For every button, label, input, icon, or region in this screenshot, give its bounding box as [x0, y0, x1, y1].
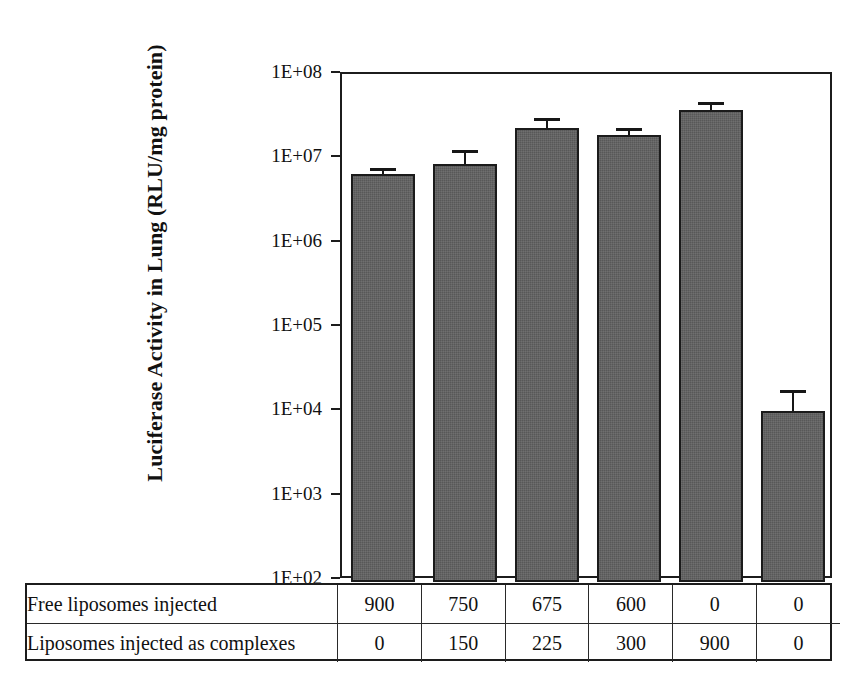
- y-axis-title: Luciferase Activity in Lung (RLU/mg prot…: [138, 3, 172, 523]
- table-cell-value: 0: [673, 585, 757, 624]
- y-axis-tick-mark: [331, 493, 340, 495]
- error-bar-cap: [780, 390, 806, 393]
- bar: [597, 135, 661, 582]
- table-cell-value: 300: [589, 624, 673, 663]
- y-axis-tick-label: 1E+04: [236, 399, 322, 418]
- bar: [679, 110, 743, 582]
- error-bar-cap: [534, 118, 560, 121]
- table-row: Liposomes injected as complexes015022530…: [27, 624, 840, 663]
- bar: [515, 128, 579, 582]
- error-bar-cap: [370, 168, 396, 171]
- table-cell-value: 0: [757, 624, 840, 663]
- y-axis-tick-label: 1E+05: [236, 315, 322, 334]
- table-row-label: Liposomes injected as complexes: [27, 624, 338, 663]
- y-axis-tick-label: 1E+08: [236, 62, 322, 81]
- table-cell-value: 150: [421, 624, 505, 663]
- table-row-label: Free liposomes injected: [27, 585, 338, 624]
- y-axis-tick-mark: [331, 577, 340, 579]
- table-cell-value: 600: [589, 585, 673, 624]
- table-cell-value: 750: [421, 585, 505, 624]
- y-axis-tick-mark: [331, 240, 340, 242]
- bar: [761, 411, 825, 582]
- y-axis-tick-label: 1E+03: [236, 484, 322, 503]
- y-axis-tick-mark: [331, 155, 340, 157]
- error-bar-cap: [452, 150, 478, 153]
- error-bar-cap: [698, 102, 724, 105]
- table-cell-value: 0: [757, 585, 840, 624]
- bar: [351, 174, 415, 582]
- data-table-grid: Free liposomes injected90075067560000Lip…: [27, 585, 840, 662]
- y-axis-tick-label: 1E+06: [236, 231, 322, 250]
- y-axis-tick-mark: [331, 408, 340, 410]
- figure-root: Luciferase Activity in Lung (RLU/mg prot…: [0, 0, 858, 694]
- table-cell-value: 675: [505, 585, 589, 624]
- data-table: Free liposomes injected90075067560000Lip…: [25, 583, 832, 661]
- table-cell-value: 225: [505, 624, 589, 663]
- error-bar-cap: [616, 128, 642, 131]
- table-cell-value: 900: [673, 624, 757, 663]
- bar: [433, 164, 497, 582]
- table-row: Free liposomes injected90075067560000: [27, 585, 840, 624]
- y-axis-tick-mark: [331, 324, 340, 326]
- table-cell-value: 900: [338, 585, 422, 624]
- table-cell-value: 0: [338, 624, 422, 663]
- error-bar-stem: [792, 390, 794, 412]
- y-axis-tick-label: 1E+07: [236, 146, 322, 165]
- plot-inner: [342, 74, 830, 576]
- y-axis-tick-mark: [331, 71, 340, 73]
- plot-area: [340, 72, 832, 578]
